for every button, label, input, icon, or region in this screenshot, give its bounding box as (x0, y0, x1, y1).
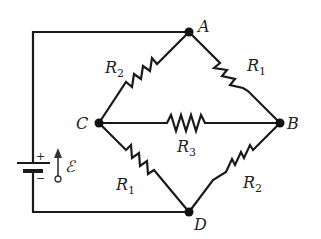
emf-arrow-icon (54, 148, 62, 182)
plus-sign: + (36, 150, 45, 163)
circuit-diagram: + − ℰ R2 R1 R3 R1 R2 A B C D (0, 0, 321, 239)
node-b (276, 119, 285, 128)
label-b: B (286, 114, 299, 133)
label-d: D (193, 215, 207, 234)
label-r-cb: R3 (176, 137, 196, 159)
resistor-cb (99, 115, 280, 131)
node-d (185, 208, 194, 217)
wire-top (33, 32, 189, 163)
label-c: C (76, 114, 88, 133)
resistor-ab (189, 32, 280, 123)
label-a: A (196, 17, 210, 36)
resistor-bd (189, 123, 280, 212)
resistor-cd (99, 123, 189, 212)
minus-sign: − (36, 172, 45, 185)
resistor-ac (99, 32, 189, 123)
emf-label: ℰ (65, 157, 77, 176)
label-r-ab: R1 (246, 56, 266, 78)
node-a (185, 28, 194, 37)
label-r-ac: R2 (104, 58, 124, 80)
node-c (95, 119, 104, 128)
label-r-bd: R2 (242, 173, 262, 195)
label-r-cd: R1 (115, 175, 135, 197)
